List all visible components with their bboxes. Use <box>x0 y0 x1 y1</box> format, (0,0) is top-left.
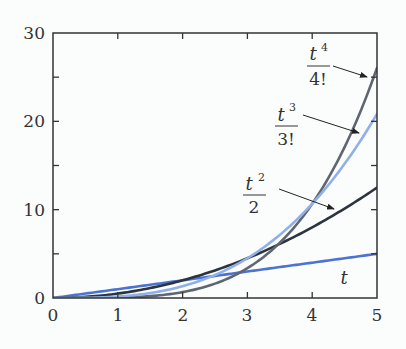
label-t4-denominator: 4! <box>309 69 327 89</box>
label-t3-exponent: 3 <box>289 101 296 114</box>
label-t2-numerator: t <box>245 173 253 194</box>
y-tick-label-10: 10 <box>23 200 45 220</box>
arrow-t4 <box>333 66 367 77</box>
label-t3-denominator: 3! <box>277 129 295 149</box>
y-tick-label-0: 0 <box>34 288 45 308</box>
label-t: t <box>340 267 348 288</box>
label-t4-over-4fact: t 4 4! <box>307 41 367 89</box>
arrow-t3 <box>303 115 359 133</box>
curve-t-2-2 <box>53 188 377 298</box>
arrow-t2 <box>279 189 334 209</box>
x-tick-label-0: 0 <box>48 305 59 325</box>
label-t4-exponent: 4 <box>321 41 328 54</box>
power-series-chart: 0 10 20 30 0 1 2 3 4 5 t t 2 2 t 3 3! t … <box>0 0 406 349</box>
label-t3-numerator: t <box>277 104 285 125</box>
label-t2-exponent: 2 <box>258 171 265 184</box>
y-tick-label-20: 20 <box>23 111 45 131</box>
x-tick-label-5: 5 <box>372 305 383 325</box>
x-tick-label-2: 2 <box>178 305 189 325</box>
label-t2-denominator: 2 <box>249 197 260 217</box>
label-t4-numerator: t <box>309 43 317 64</box>
axis-ticks <box>53 33 377 298</box>
x-tick-label-1: 1 <box>113 305 124 325</box>
x-tick-label-4: 4 <box>307 305 318 325</box>
plot-frame <box>53 33 377 298</box>
y-tick-label-30: 30 <box>23 23 45 43</box>
curves-group <box>53 68 377 298</box>
x-tick-label-3: 3 <box>242 305 253 325</box>
